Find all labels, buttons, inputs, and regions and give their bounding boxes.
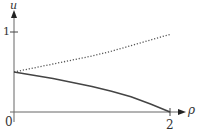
- x-tick-label-2: 2: [166, 119, 174, 131]
- dotted-curve: [14, 34, 170, 72]
- y-axis-label: u: [10, 0, 17, 11]
- chart-plot: [0, 0, 197, 134]
- origin-label: 0: [5, 116, 13, 128]
- solid-curve: [14, 72, 170, 112]
- x-axis-arrow-icon: [178, 109, 186, 115]
- y-tick-label-1: 1: [3, 26, 10, 37]
- x-axis-label: ρ: [188, 104, 195, 116]
- axes: [10, 10, 186, 122]
